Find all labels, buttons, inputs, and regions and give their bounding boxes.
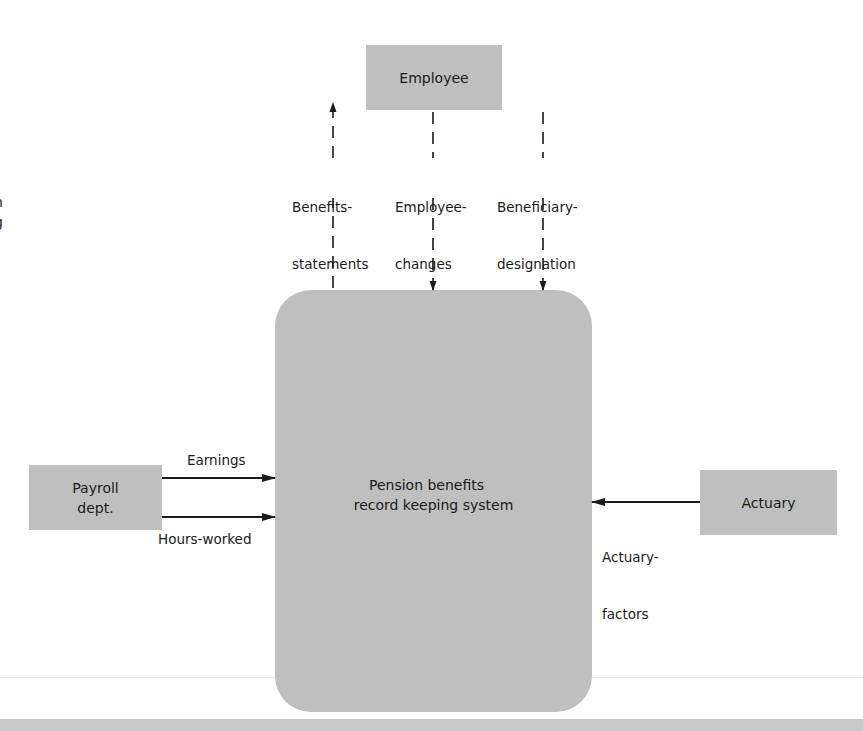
flow-label-line: statements — [292, 255, 369, 274]
flow-label-line: factors — [602, 605, 659, 624]
flow-label-line: Actuary- — [602, 548, 659, 567]
flow-label-benefits-statements: Benefits- statements — [292, 160, 369, 293]
flow-label-beneficiary-designation: Beneficiary- designation — [497, 160, 578, 293]
flow-label-hours-worked: Hours-worked — [158, 530, 252, 549]
flow-label-actuary-factors: Actuary- factors — [602, 510, 659, 643]
flow-label-earnings: Earnings — [187, 451, 246, 470]
flow-label-line: Beneficiary- — [497, 198, 578, 217]
flow-arrows — [0, 0, 863, 731]
flow-label-line: Benefits- — [292, 198, 369, 217]
flow-label-line: changes — [395, 255, 467, 274]
flow-label-line: Employee- — [395, 198, 467, 217]
flow-label-employee-changes: Employee- changes — [395, 160, 467, 293]
flow-label-line: designation — [497, 255, 578, 274]
